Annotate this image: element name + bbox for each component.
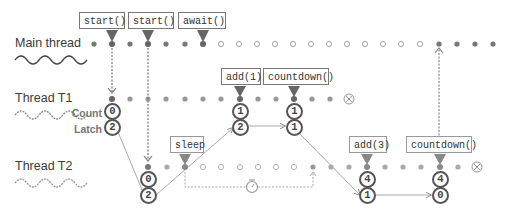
t2-sleep-callout: sleep: [170, 136, 204, 153]
main-thread-wave-icon: [15, 56, 87, 64]
t1-countdown-callout: countdown(): [263, 68, 329, 85]
t1-countdown-latch: 1: [286, 119, 303, 136]
main-start-t1-callout: start(): [79, 12, 125, 29]
t1-add-latch: 2: [232, 119, 249, 136]
latch-label: Latch: [58, 123, 102, 135]
main-thread-label: Main thread: [15, 36, 81, 50]
main-thread-timeline: [91, 41, 495, 46]
t2-thread-wave-icon: [15, 179, 87, 187]
t2-countdown-latch: 0: [432, 187, 449, 204]
stopwatch-icon: [247, 180, 258, 193]
t2-start-latch: 2: [140, 187, 157, 204]
t1-start-count: 0: [104, 103, 121, 120]
t2-add-count: 4: [359, 171, 376, 188]
countdown-latch-diagram: Main thread Thread T1 Thread T2 Count La…: [0, 0, 509, 218]
t2-countdown-count: 4: [432, 171, 449, 188]
t2-thread-label: Thread T2: [15, 159, 72, 173]
t1-add-callout: add(1): [221, 68, 261, 85]
count-label: Count: [58, 107, 102, 119]
t2-add-callout: add(3): [349, 136, 387, 153]
t2-add-latch: 1: [359, 187, 376, 204]
t2-countdown-callout: countdown(): [406, 136, 472, 153]
t2-end-icon: [472, 162, 482, 172]
t1-start-latch: 2: [104, 119, 121, 136]
main-await-callout: await(): [178, 12, 226, 29]
t1-add-count: 1: [232, 103, 249, 120]
t2-timeline: [164, 162, 482, 172]
t1-countdown-count: 1: [286, 103, 303, 120]
t2-start-count: 0: [140, 171, 157, 188]
t1-end-icon: [344, 94, 354, 104]
main-start-t2-callout: start(): [128, 12, 174, 29]
t1-thread-label: Thread T1: [15, 91, 72, 105]
